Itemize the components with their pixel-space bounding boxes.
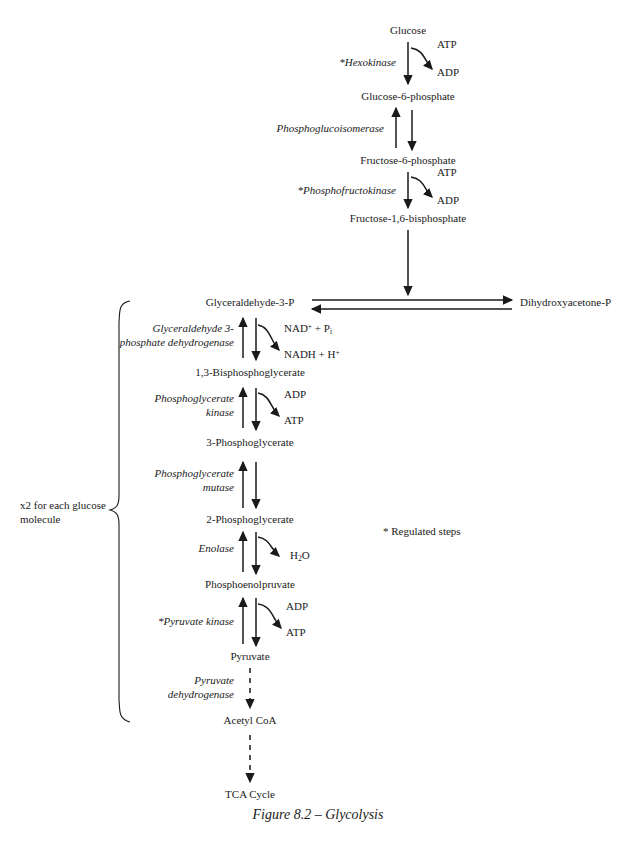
enzyme-phosphoglucoisomerase-line1: Phosphoglucoisomerase bbox=[276, 122, 384, 134]
metabolite-glucose: Glucose bbox=[390, 24, 426, 37]
metabolite-3-phosphoglycerate: 3-Phosphoglycerate bbox=[206, 436, 293, 449]
enzyme-pyruvate-dehydrogenase: Pyruvate dehydrogenase bbox=[168, 673, 234, 701]
enzyme-phosphofructokinase: *Phosphofructokinase bbox=[298, 183, 396, 197]
cofactor-atp-hexokinase: ATP bbox=[437, 38, 457, 51]
cofactor-adp-pyruvate-kinase: ADP bbox=[286, 600, 308, 613]
enzyme-pgk-line1: Phosphoglycerate bbox=[155, 391, 234, 405]
metabolite-glyceraldehyde-3-p: Glyceraldehyde-3-P bbox=[206, 296, 295, 309]
enzyme-glyceraldehyde-3-phosphate-dehydrogenase: Glyceraldehyde 3- phosphate dehydrogenas… bbox=[120, 321, 234, 349]
enzyme-pdh-line1: Pyruvate bbox=[168, 673, 234, 687]
metabolite-2-phosphoglycerate: 2-Phosphoglycerate bbox=[206, 513, 293, 526]
metabolite-1-3-bisphosphoglycerate: 1,3-Bisphosphoglycerate bbox=[195, 366, 305, 379]
cofactor-nadh-h: NADH + H+ bbox=[284, 346, 340, 361]
regulated-steps-footnote: * Regulated steps bbox=[383, 525, 461, 538]
enzyme-pgk-line2: kinase bbox=[155, 405, 234, 419]
cofactor-water-enolase: H2O bbox=[290, 549, 310, 565]
metabolite-acetyl-coa: Acetyl CoA bbox=[224, 714, 277, 727]
enzyme-hexokinase-line1: *Hexokinase bbox=[339, 56, 396, 68]
enzyme-pdh-line2: dehydrogenase bbox=[168, 687, 234, 701]
enzyme-pgm-line1: Phosphoglycerate bbox=[155, 466, 234, 480]
cofactor-adp-pgk: ADP bbox=[284, 388, 306, 401]
enzyme-pgm-line2: mutase bbox=[155, 480, 234, 494]
metabolite-glucose-6-phosphate: Glucose-6-phosphate bbox=[361, 90, 454, 103]
metabolite-tca-cycle: TCA Cycle bbox=[225, 788, 275, 801]
enzyme-gapdh-line2: phosphate dehydrogenase bbox=[120, 335, 234, 349]
enzyme-phosphoglycerate-mutase: Phosphoglycerate mutase bbox=[155, 466, 234, 494]
enzyme-enolase-line1: Enolase bbox=[199, 542, 234, 554]
metabolite-pyruvate: Pyruvate bbox=[230, 650, 269, 663]
cofactor-adp-hexokinase: ADP bbox=[437, 66, 459, 79]
cofactor-atp-pyruvate-kinase: ATP bbox=[286, 626, 306, 639]
bracket-note-line2: molecule bbox=[20, 512, 106, 526]
enzyme-gapdh-line1: Glyceraldehyde 3- bbox=[120, 321, 234, 335]
enzyme-phosphoglucoisomerase: Phosphoglucoisomerase bbox=[276, 121, 384, 135]
enzyme-enolase: Enolase bbox=[199, 541, 234, 555]
cofactor-atp-pgk: ATP bbox=[284, 414, 304, 427]
metabolite-dihydroxyacetone-p: Dihydroxyacetone-P bbox=[520, 296, 611, 309]
enzyme-phosphoglycerate-kinase: Phosphoglycerate kinase bbox=[155, 391, 234, 419]
figure-caption: Figure 8.2 – Glycolysis bbox=[253, 808, 384, 821]
cofactor-atp-pfk: ATP bbox=[437, 166, 457, 179]
enzyme-hexokinase: *Hexokinase bbox=[339, 55, 396, 69]
cofactor-adp-pfk: ADP bbox=[437, 194, 459, 207]
bracket-note-line1: x2 for each glucose bbox=[20, 498, 106, 512]
metabolite-fructose-1-6-bisphosphate: Fructose-1,6-bisphosphate bbox=[350, 212, 466, 225]
glycolysis-diagram: Glucose Glucose-6-phosphate Fructose-6-p… bbox=[0, 0, 636, 842]
enzyme-pyruvate-kinase: *Pyruvate kinase bbox=[158, 614, 234, 628]
bracket-note: x2 for each glucose molecule bbox=[20, 498, 106, 526]
enzyme-phosphofructokinase-line1: *Phosphofructokinase bbox=[298, 184, 396, 196]
metabolite-phosphoenolpyruvate: Phosphoenolpruvate bbox=[205, 578, 295, 591]
enzyme-pyruvate-kinase-line1: *Pyruvate kinase bbox=[158, 615, 234, 627]
cofactor-nad-pi: NAD+ + Pi bbox=[284, 320, 332, 338]
